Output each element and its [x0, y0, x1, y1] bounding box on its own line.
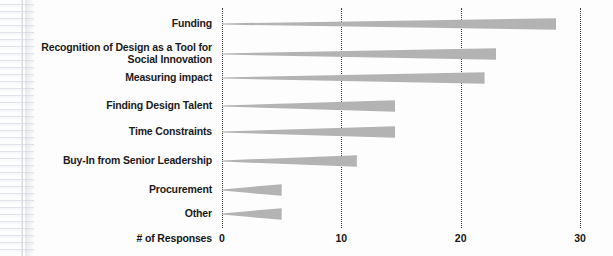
category-label-2: Measuring impact	[24, 72, 212, 84]
category-label-6: Procurement	[24, 184, 212, 196]
category-label-line: Other	[24, 208, 212, 220]
bar-3	[222, 97, 395, 115]
x-tick-0: 0	[219, 232, 225, 244]
bar-0	[222, 15, 556, 33]
category-label-3: Finding Design Talent	[24, 100, 212, 112]
bar-7	[222, 205, 282, 223]
x-axis-title: # of Responses	[24, 232, 212, 244]
category-label-line: Time Constraints	[24, 126, 212, 138]
category-label-line: Measuring impact	[24, 72, 212, 84]
category-label-line: Procurement	[24, 184, 212, 196]
category-label-line: Finding Design Talent	[24, 100, 212, 112]
bar-4	[222, 123, 395, 141]
category-label-4: Time Constraints	[24, 126, 212, 138]
category-label-7: Other	[24, 208, 212, 220]
category-label-1: Recognition of Design as a Tool forSocia…	[24, 42, 212, 66]
x-tick-10: 10	[335, 232, 347, 244]
bar-1	[222, 45, 496, 63]
category-label-line: Funding	[24, 18, 212, 30]
x-tick-20: 20	[455, 232, 467, 244]
horizontal-bar-chart: FundingRecognition of Design as a Tool f…	[0, 0, 613, 256]
bar-6	[222, 181, 282, 199]
category-label-line: Social Innovation	[24, 54, 212, 66]
category-label-0: Funding	[24, 18, 212, 30]
gridline-10	[341, 8, 342, 228]
gridline-30	[580, 8, 581, 228]
bar-5	[222, 152, 357, 170]
bar-2	[222, 69, 485, 87]
gridline-20	[461, 8, 462, 228]
x-tick-30: 30	[574, 232, 586, 244]
category-label-5: Buy-In from Senior Leadership	[24, 155, 212, 167]
category-label-line: Buy-In from Senior Leadership	[24, 155, 212, 167]
